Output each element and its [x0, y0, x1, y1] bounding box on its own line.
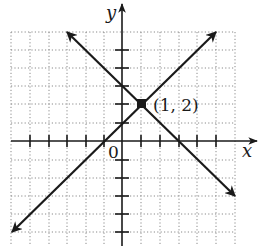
x-axis-label: x	[242, 140, 252, 161]
increasing-line	[12, 32, 216, 232]
decreasing-line	[67, 32, 235, 196]
coordinate-plane: y x 0 (1, 2)	[0, 0, 259, 246]
y-axis-label: y	[105, 2, 117, 23]
intersection-point	[137, 99, 146, 108]
origin-label: 0	[108, 142, 119, 162]
point-label: (1, 2)	[153, 95, 199, 115]
